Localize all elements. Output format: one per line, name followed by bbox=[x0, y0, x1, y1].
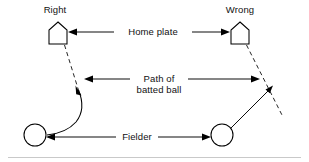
foul-line-left bbox=[65, 45, 81, 95]
home-plate-right-icon bbox=[231, 22, 249, 44]
home-plate-arrowhead-right bbox=[221, 28, 230, 35]
label-path-of-batted-ball-line1: Path of bbox=[128, 73, 190, 84]
ball-path-right bbox=[231, 89, 270, 128]
home-plate-left-icon bbox=[49, 22, 67, 44]
ball-path-left-arrowhead bbox=[76, 86, 82, 96]
fielder-arrowhead-right bbox=[202, 133, 211, 140]
label-wrong-heading: Wrong bbox=[208, 4, 272, 15]
fielder-left-icon bbox=[24, 124, 46, 146]
label-fielder: Fielder bbox=[114, 131, 160, 142]
path-arrowhead-right bbox=[251, 75, 260, 82]
label-home-plate: Home plate bbox=[113, 26, 193, 37]
label-path-of-batted-ball-line2: batted ball bbox=[118, 84, 200, 95]
path-arrowhead-left bbox=[84, 75, 93, 82]
fielding-diagram: Right Wrong Home plate Path of batted ba… bbox=[0, 0, 309, 162]
home-plate-arrowhead-left bbox=[68, 28, 77, 35]
fielder-right-icon bbox=[211, 124, 233, 146]
label-right-heading: Right bbox=[25, 4, 85, 15]
ball-path-left bbox=[47, 90, 82, 135]
